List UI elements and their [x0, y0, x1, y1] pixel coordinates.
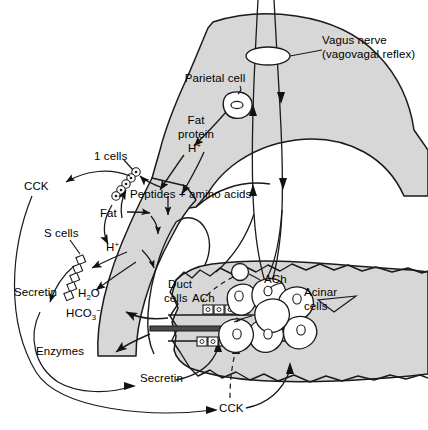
- cck-label-left: CCK: [24, 180, 49, 192]
- duodenal-h-plus-label: H+: [106, 240, 119, 253]
- s-cells-label: S cells: [44, 227, 79, 239]
- fat-label: Fat: [188, 114, 206, 126]
- fat-duodenum-label: Fat: [100, 207, 118, 219]
- parietal-cell-label: Parietal cell: [185, 72, 246, 84]
- ach-duct-label: ACh: [192, 292, 215, 304]
- vagus-nerve-label-line2: (vagovagal reflex): [322, 48, 415, 60]
- duct-cells-label-line2: cells: [164, 292, 188, 304]
- vagus-ganglion-ellipse: [246, 47, 290, 65]
- hco3-label: HCO3−: [66, 306, 101, 322]
- enzymes-label: Enzymes: [36, 345, 84, 357]
- peptides-amino-acids-label: Peptides + amino acids: [130, 188, 252, 200]
- ach-acinar-label: ACh: [264, 273, 287, 285]
- acinar-cells-label-line1: Acinar: [304, 286, 337, 298]
- duct-cells-label-line1: Duct: [168, 278, 193, 290]
- protein-label: protein: [178, 128, 214, 140]
- h2o-label: H2O: [78, 287, 100, 302]
- secretin-label-bottom: Secretin: [140, 372, 183, 384]
- figure-canvas: Vagus nerve (vagovagal reflex) Parietal …: [0, 0, 428, 430]
- secretin-label-left: Secretin: [14, 286, 57, 298]
- pancreatic-secretion-diagram: Vagus nerve (vagovagal reflex) Parietal …: [0, 0, 428, 430]
- cck-label-bottom: CCK: [219, 402, 244, 414]
- vagus-nerve-label-line1: Vagus nerve: [322, 34, 387, 46]
- pancreatic-ganglion-circle: [232, 264, 249, 281]
- i-cells-label: 1 cells: [94, 150, 127, 162]
- acinar-cells-label-line2: cells: [304, 300, 328, 312]
